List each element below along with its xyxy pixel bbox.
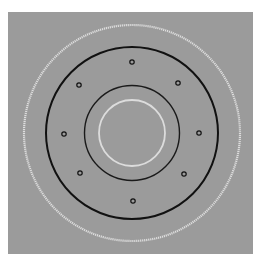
gray-background-panel (8, 12, 253, 254)
concentric-ring-diagram (0, 0, 264, 268)
